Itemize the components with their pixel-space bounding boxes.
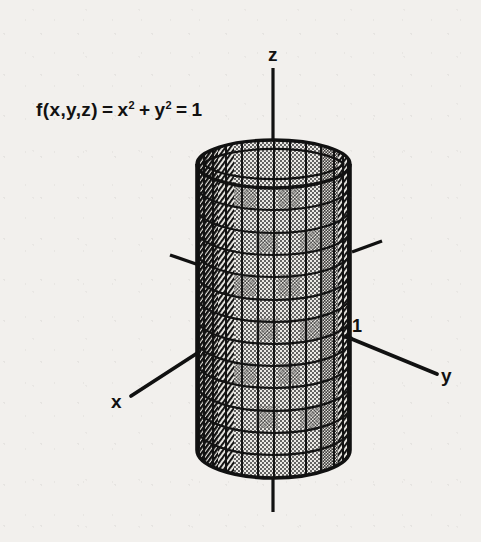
y-axis-back-stub bbox=[352, 241, 382, 252]
equation-lhs: f(x,y,z) bbox=[36, 99, 98, 120]
equation-term1-exponent: 2 bbox=[128, 99, 135, 111]
equation-caption: f(x,y,z)=x2+y2=1 bbox=[36, 100, 202, 119]
figure-canvas: f(x,y,z)=x2+y2=1 z x y 1 bbox=[0, 0, 481, 542]
z-axis-label: z bbox=[268, 45, 278, 64]
x-axis-back-stub bbox=[170, 255, 199, 265]
x-axis bbox=[131, 352, 199, 396]
cylinder-level-surface-drawing bbox=[0, 0, 481, 542]
equation-term1-base: x bbox=[117, 99, 128, 120]
cylinder-body bbox=[195, 140, 354, 485]
y-axis bbox=[344, 336, 437, 374]
x-axis-label: x bbox=[111, 392, 122, 411]
y-axis-unit-tick-label: 1 bbox=[352, 317, 362, 335]
equation-term2-base: y bbox=[154, 99, 165, 120]
equation-equals-2: = bbox=[176, 99, 188, 120]
y-axis-unit-tick bbox=[344, 336, 352, 339]
equation-equals-1: = bbox=[102, 99, 114, 120]
equation-rhs: 1 bbox=[191, 99, 202, 120]
y-axis-label: y bbox=[441, 366, 452, 385]
equation-plus: + bbox=[139, 99, 151, 120]
equation-term2-exponent: 2 bbox=[165, 99, 172, 111]
